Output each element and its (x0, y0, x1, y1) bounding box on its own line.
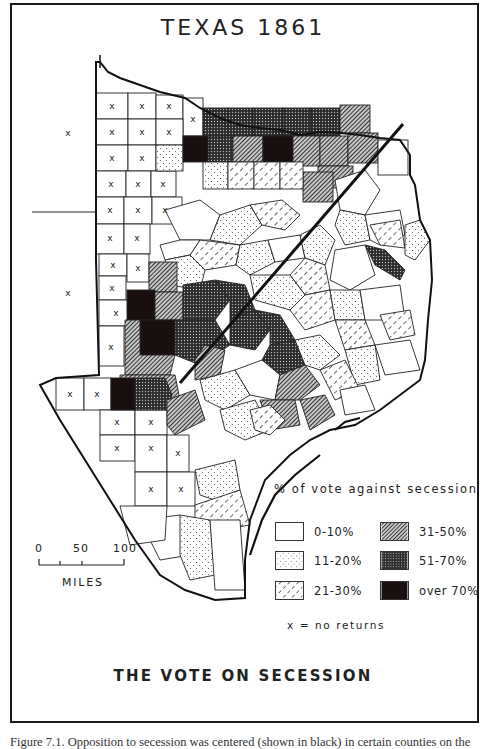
swatch-dash (275, 581, 304, 600)
svg-text:x: x (65, 288, 71, 298)
svg-text:x: x (148, 417, 154, 427)
figure-subtitle: THE VOTE ON SECESSION (0, 667, 486, 685)
svg-text:x: x (108, 179, 114, 189)
legend-item-0-10: 0-10% (275, 522, 354, 541)
svg-text:x: x (148, 484, 154, 494)
svg-text:x: x (109, 153, 115, 163)
swatch-hatch (380, 522, 409, 541)
no-returns-note: x = no returns (287, 619, 385, 631)
svg-text:x: x (162, 205, 168, 215)
texas-county-map: xxx x xxx xx xxx xxx xx xx xx x xx xx xx… (0, 0, 486, 749)
svg-text:x: x (109, 283, 115, 293)
legend-item-11-20: 11-20% (275, 551, 362, 570)
svg-text:x: x (178, 484, 184, 494)
scale-tick-50: 50 (73, 542, 89, 555)
figure-caption: Figure 7.1. Opposition to secession was … (10, 735, 470, 749)
scale-unit: MILES (62, 576, 104, 589)
svg-text:x: x (175, 448, 181, 458)
svg-text:x: x (109, 101, 115, 111)
svg-text:x: x (114, 417, 120, 427)
scale-bar (39, 559, 124, 565)
svg-text:x: x (134, 233, 140, 243)
legend-title: % of vote against secession (274, 482, 478, 496)
svg-text:x: x (135, 179, 141, 189)
svg-text:x: x (148, 443, 154, 453)
swatch-solid (380, 581, 409, 600)
svg-text:x: x (110, 260, 116, 270)
svg-text:x: x (166, 101, 172, 111)
svg-text:x: x (113, 308, 119, 318)
swatch-dots (275, 551, 304, 570)
svg-text:x: x (109, 127, 115, 137)
svg-text:x: x (190, 114, 196, 124)
svg-text:x: x (135, 205, 141, 215)
svg-text:x: x (139, 127, 145, 137)
svg-text:x: x (107, 205, 113, 215)
legend-item-51-70: 51-70% (380, 551, 467, 570)
svg-text:x: x (139, 153, 145, 163)
svg-text:x: x (65, 128, 71, 138)
svg-text:x: x (67, 389, 73, 399)
legend-item-21-30: 21-30% (275, 581, 362, 600)
swatch-cross (380, 551, 409, 570)
legend-item-over-70: over 70% (380, 581, 479, 600)
svg-text:x: x (107, 233, 113, 243)
svg-text:x: x (94, 389, 100, 399)
svg-text:x: x (166, 127, 172, 137)
svg-text:x: x (114, 443, 120, 453)
svg-text:x: x (135, 263, 141, 273)
svg-text:x: x (139, 101, 145, 111)
svg-text:x: x (108, 342, 114, 352)
legend-item-31-50: 31-50% (380, 522, 467, 541)
swatch-blank (275, 522, 304, 541)
scale-tick-0: 0 (35, 542, 43, 555)
svg-text:x: x (160, 179, 166, 189)
scale-tick-100: 100 (113, 542, 137, 555)
